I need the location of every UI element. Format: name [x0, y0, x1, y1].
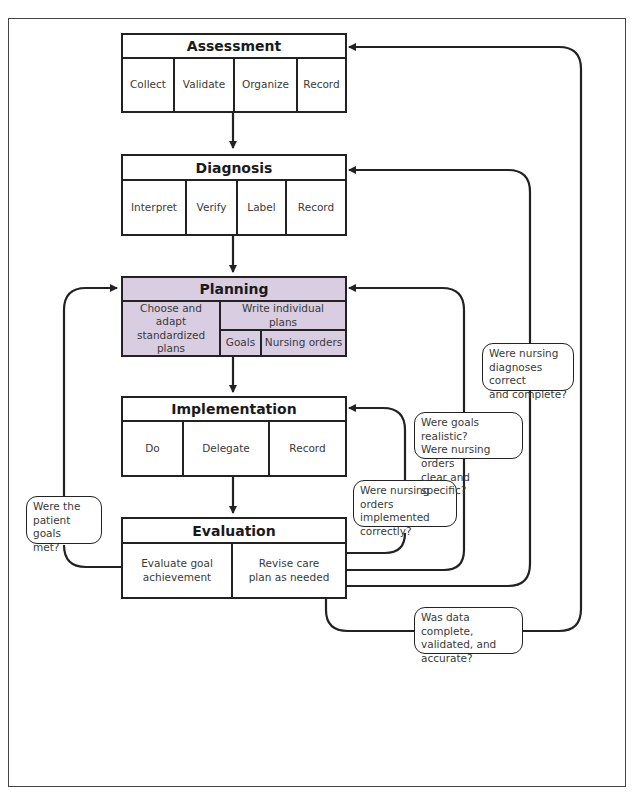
planning-title: Planning: [123, 278, 345, 302]
question-patient-goals: Were the patient goals met?: [26, 496, 102, 544]
planning-individual-plans: Write individual plans Goals Nursing ord…: [221, 302, 345, 355]
diagnosis-box: Diagnosis Interpret Verify Label Record: [121, 154, 347, 236]
implementation-step-record: Record: [270, 422, 345, 475]
evaluation-step-evaluate-goals: Evaluate goal achievement: [123, 544, 233, 597]
assessment-title: Assessment: [123, 35, 345, 59]
diagnosis-step-record: Record: [287, 181, 345, 234]
assessment-step-collect: Collect: [123, 59, 175, 111]
implementation-box: Implementation Do Delegate Record: [121, 396, 347, 477]
planning-goals: Goals: [221, 331, 262, 355]
question-goals-realistic: Were goals realistic? Were nursing order…: [414, 412, 523, 459]
assessment-step-record: Record: [298, 59, 345, 111]
assessment-step-validate: Validate: [175, 59, 235, 111]
implementation-title: Implementation: [123, 398, 345, 422]
evaluation-box: Evaluation Evaluate goal achievement Rev…: [121, 517, 347, 599]
planning-box: Planning Choose and adapt standardized p…: [121, 276, 347, 357]
implementation-step-do: Do: [123, 422, 184, 475]
planning-standardized-plans: Choose and adapt standardized plans: [123, 302, 221, 355]
assessment-step-organize: Organize: [235, 59, 298, 111]
diagnosis-step-label: Label: [238, 181, 287, 234]
evaluation-step-revise-plan: Revise care plan as needed: [233, 544, 345, 597]
diagnosis-title: Diagnosis: [123, 156, 345, 181]
assessment-box: Assessment Collect Validate Organize Rec…: [121, 33, 347, 113]
planning-write-individual: Write individual plans: [221, 302, 345, 331]
question-diagnoses-correct: Were nursing diagnoses correct and compl…: [482, 343, 574, 391]
planning-nursing-orders: Nursing orders: [262, 331, 345, 355]
evaluation-title: Evaluation: [123, 519, 345, 544]
implementation-step-delegate: Delegate: [184, 422, 270, 475]
question-data-complete: Was data complete, validated, and accura…: [414, 607, 523, 654]
diagnosis-step-interpret: Interpret: [123, 181, 187, 234]
diagnosis-step-verify: Verify: [187, 181, 238, 234]
